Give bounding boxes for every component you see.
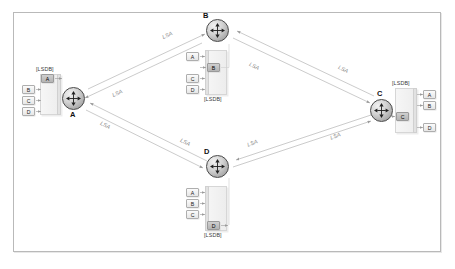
lsdb-d-connectors xyxy=(0,0,455,269)
diagram-canvas: LSA LSA LSA LSA LSA LSA LSA LSA A [LSDB]… xyxy=(0,0,455,269)
